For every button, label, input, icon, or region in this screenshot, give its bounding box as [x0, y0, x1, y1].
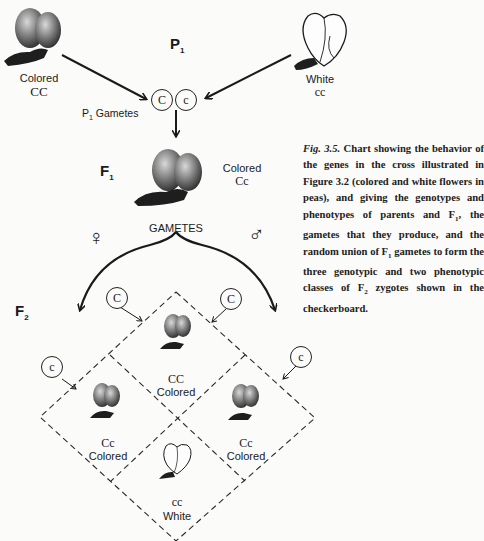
p1-gametes-label: P1 Gametes — [82, 107, 138, 121]
f1-gametes-heading: GAMETES — [146, 222, 206, 235]
p1-gamete-recessive: c — [175, 89, 197, 111]
male-symbol-icon: ♂ — [248, 224, 265, 246]
f2-female-gamete-1: C — [106, 287, 128, 309]
cell-cc-phenotype: Colored — [151, 386, 201, 399]
generation-label-f2: F2 — [15, 302, 29, 322]
colored-flower-parent-icon — [0, 6, 64, 68]
f2-male-gamete-1: C — [220, 288, 242, 310]
colored-flower-f1-icon — [132, 146, 214, 206]
female-symbol-icon: ♀ — [88, 227, 105, 249]
parent-colored-genotype: CC — [14, 85, 64, 98]
f2-female-gamete-2: c — [41, 356, 63, 378]
colored-flower-cc-left-icon — [88, 380, 124, 420]
arrow-colored-to-gamete — [62, 55, 146, 99]
cell-cc-genotype: CC — [156, 373, 196, 386]
colored-flower-cc-right-icon — [226, 382, 264, 422]
f1-genotype: Cc — [217, 175, 267, 188]
f2-male-gamete-2: c — [290, 346, 312, 368]
parent-white-genotype: cc — [300, 86, 340, 99]
cell-recessive-genotype: cc — [157, 496, 197, 509]
generation-label-f1: F1 — [100, 162, 114, 182]
generation-label-p1: P1 — [170, 35, 184, 55]
p1-gamete-dominant: C — [151, 89, 173, 111]
figure-caption: Fig. 3.5. Chart showing the behavior of … — [303, 141, 484, 317]
cell-cc-left-genotype: Cc — [88, 437, 128, 450]
cell-cc-left-phenotype: Colored — [83, 450, 133, 463]
cell-recessive-phenotype: White — [152, 510, 202, 523]
colored-flower-cc-icon — [158, 311, 194, 351]
white-flower-parent-icon — [294, 8, 354, 70]
white-flower-cc-icon — [157, 441, 197, 481]
cell-cc-right-genotype: Cc — [226, 437, 266, 450]
arrow-white-to-gamete — [206, 55, 291, 98]
cell-cc-right-phenotype: Colored — [221, 450, 271, 463]
